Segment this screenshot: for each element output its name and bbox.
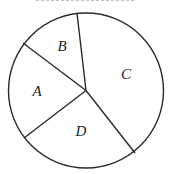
slice-label-c: C [121, 67, 131, 82]
slice-label-b: B [57, 39, 66, 54]
pie-chart [0, 0, 173, 174]
slice-label-a: A [32, 84, 41, 99]
slice-label-d: D [76, 124, 87, 139]
